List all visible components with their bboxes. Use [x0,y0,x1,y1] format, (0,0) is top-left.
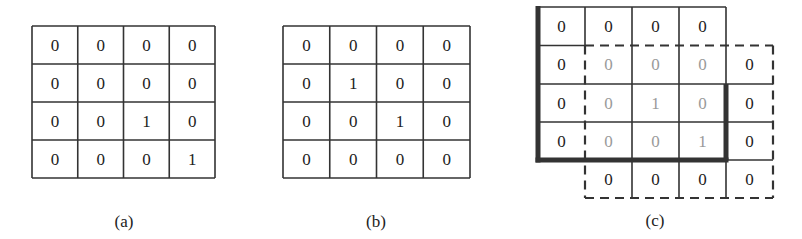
cell-value: 0 [302,36,311,55]
cell-value: 0 [557,17,566,36]
cell-value: 0 [188,36,197,55]
cell-value: 0 [745,170,754,189]
cell-value: 0 [442,74,451,93]
cell-value: 0 [302,150,311,169]
overlap-cell-value: 0 [604,132,613,151]
panel-a-grid: 0000000000100001 [32,26,215,178]
cell-value: 0 [96,150,105,169]
cell-value: 0 [51,150,60,169]
cell-value: 0 [745,94,754,113]
cell-value: 0 [188,112,197,131]
cell-value: 0 [349,112,358,131]
cell-value: 0 [349,150,358,169]
cell-value: 0 [302,74,311,93]
cell-value: 0 [745,55,754,74]
cell-value: 0 [302,112,311,131]
cell-value: 0 [51,36,60,55]
overlap-cell-value: 1 [651,94,660,113]
cell-value: 0 [698,17,707,36]
cell-value: 0 [557,94,566,113]
overlap-cell-value: 0 [698,55,707,74]
cell-value: 0 [557,55,566,74]
cell-value: 1 [142,112,151,131]
cell-value: 0 [651,170,660,189]
overlap-cell-value: 1 [698,132,707,151]
cell-value: 0 [651,17,660,36]
cell-value: 0 [557,132,566,151]
cell-value: 0 [142,150,151,169]
cell-value: 0 [51,74,60,93]
cell-value: 0 [442,112,451,131]
cell-value: 1 [188,150,197,169]
cell-value: 0 [604,17,613,36]
overlap-cell-value: 0 [604,55,613,74]
cell-value: 0 [698,170,707,189]
cell-value: 0 [396,36,405,55]
overlap-cell-value: 0 [651,132,660,151]
overlap-cell-value: 0 [651,55,660,74]
caption-a: (a) [115,212,134,231]
cell-value: 0 [188,74,197,93]
cell-value: 0 [396,74,405,93]
cell-value: 0 [142,36,151,55]
cell-value: 0 [396,150,405,169]
cell-value: 0 [745,132,754,151]
cell-value: 0 [604,170,613,189]
cell-value: 0 [51,112,60,131]
caption-b: (b) [366,212,386,231]
cell-value: 0 [96,74,105,93]
cell-value: 0 [96,36,105,55]
overlap-cell-value: 0 [604,94,613,113]
cell-value: 0 [142,74,151,93]
cell-value: 1 [396,112,405,131]
panel-b-grid: 0000010000100000 [283,26,470,178]
overlap-cell-value: 0 [698,94,707,113]
cell-value: 1 [349,74,358,93]
cell-value: 0 [442,36,451,55]
caption-c: (c) [646,211,665,230]
cell-value: 0 [349,36,358,55]
cell-value: 0 [96,112,105,131]
cell-value: 0 [442,150,451,169]
panel-c-overlay-grid: 00000000000100000100000 [536,6,774,198]
matrix-figure: 0000000000100001 0000010000100000 000000… [0,0,802,239]
